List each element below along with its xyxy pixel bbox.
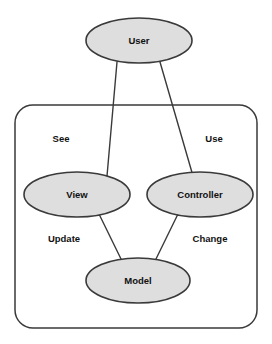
edge-label-use: Use	[205, 133, 222, 144]
connector-view-model	[99, 214, 122, 261]
view-label: View	[66, 189, 88, 200]
edge-label-change: Change	[193, 233, 228, 244]
node-controller[interactable]: Controller	[147, 172, 253, 217]
edge-label-see: See	[53, 133, 70, 144]
connector-user-controller	[160, 62, 193, 176]
model-label: Model	[124, 275, 151, 286]
connector-controller-model	[155, 214, 178, 261]
edge-label-update: Update	[48, 233, 80, 244]
mvc-diagram: User View Controller Model See Use Updat…	[0, 0, 272, 344]
node-model[interactable]: Model	[86, 258, 190, 303]
node-user[interactable]: User	[86, 18, 192, 63]
connector-user-view	[107, 62, 117, 176]
user-label: User	[128, 35, 149, 46]
connector-group	[99, 62, 193, 261]
mvc-diagram-canvas: User View Controller Model See Use Updat…	[0, 0, 272, 344]
controller-label: Controller	[177, 189, 223, 200]
node-view[interactable]: View	[24, 172, 130, 217]
